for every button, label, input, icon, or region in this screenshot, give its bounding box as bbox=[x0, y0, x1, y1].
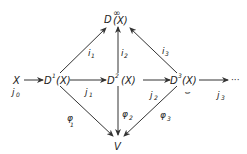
svg-text:(X): (X) bbox=[121, 75, 136, 86]
label-j0: j 0 bbox=[10, 87, 20, 98]
node-V: V bbox=[114, 141, 122, 152]
node-D2: D 2 (X) bbox=[107, 72, 136, 86]
svg-text:j: j bbox=[83, 87, 88, 97]
svg-text:j: j bbox=[148, 90, 153, 100]
label-phi2: φ 2 bbox=[122, 109, 133, 121]
commutative-diagram: X D 1 (X) D 2 (X) D 3 (X) ⌣ D ∞ (X) V ··… bbox=[0, 0, 247, 154]
svg-text:(X): (X) bbox=[113, 15, 128, 26]
svg-text:1: 1 bbox=[91, 52, 95, 59]
svg-text:(X): (X) bbox=[56, 75, 71, 86]
svg-text:2: 2 bbox=[154, 94, 158, 101]
arrow-i3 bbox=[130, 28, 177, 73]
svg-text:φ: φ bbox=[160, 110, 166, 120]
label-phi3: φ 3 bbox=[160, 110, 171, 122]
svg-text:D: D bbox=[170, 75, 178, 86]
loop-mark: ⌣ bbox=[184, 87, 191, 97]
arrow-i1 bbox=[60, 28, 106, 73]
svg-text:2: 2 bbox=[124, 52, 128, 59]
label-i2: i 2 bbox=[121, 48, 128, 59]
node-D3: D 3 (X) ⌣ bbox=[170, 72, 197, 97]
node-D1: D 1 (X) bbox=[44, 72, 71, 86]
svg-text:1: 1 bbox=[70, 121, 74, 128]
svg-text:2: 2 bbox=[129, 114, 133, 121]
svg-text:j: j bbox=[10, 87, 15, 97]
svg-text:3: 3 bbox=[165, 50, 169, 57]
svg-text:D: D bbox=[44, 75, 52, 86]
label-phi1: φ 1 bbox=[67, 113, 74, 128]
label-j2: j 2 bbox=[148, 90, 158, 101]
label-i1: i 1 bbox=[88, 48, 95, 59]
node-ellipsis: ··· bbox=[231, 75, 240, 85]
label-i3: i 3 bbox=[162, 46, 169, 57]
node-D-infinity: D ∞ (X) bbox=[104, 8, 128, 26]
svg-text:1: 1 bbox=[89, 91, 93, 98]
node-X: X bbox=[12, 75, 21, 86]
svg-text:φ: φ bbox=[122, 109, 128, 119]
svg-text:(X): (X) bbox=[182, 75, 197, 86]
svg-text:0: 0 bbox=[16, 91, 20, 98]
svg-text:D: D bbox=[107, 75, 115, 86]
svg-text:3: 3 bbox=[221, 94, 225, 101]
svg-text:D: D bbox=[104, 14, 112, 25]
svg-text:j: j bbox=[215, 90, 220, 100]
svg-text:2: 2 bbox=[115, 72, 119, 79]
label-j1: j 1 bbox=[83, 87, 93, 98]
label-j3: j 3 bbox=[215, 90, 225, 101]
svg-text:3: 3 bbox=[167, 115, 171, 122]
